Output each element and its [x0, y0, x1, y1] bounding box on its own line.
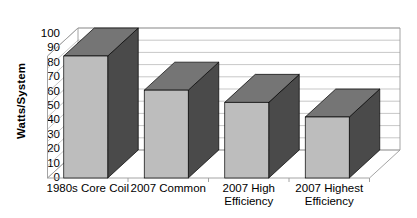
bar-front-face	[144, 90, 188, 178]
bar-front-face	[225, 102, 269, 178]
x-axis-labels: 1980s Core Coil2007 Common2007 HighEffic…	[0, 180, 417, 218]
bar-chart: Watts/System 100 90 80 70 60 50 40 30 20…	[0, 0, 417, 218]
x-axis-category-label: 2007 HighestEfficiency	[274, 182, 384, 208]
bar-front-face	[64, 56, 108, 178]
category-label-line: Efficiency	[274, 195, 384, 208]
category-label-line: 2007 Highest	[274, 182, 384, 195]
bar-2	[144, 62, 219, 178]
bar-front-face	[305, 117, 349, 178]
bar-1	[64, 28, 139, 178]
